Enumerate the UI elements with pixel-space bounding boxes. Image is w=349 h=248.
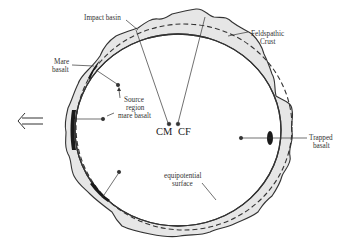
equipotential-surface-label-2: surface	[172, 180, 193, 188]
mare-basalt-label-2: basalt	[52, 66, 69, 74]
cm-label: CM	[156, 126, 173, 137]
equipotential-surface-label: equipotential	[164, 172, 202, 180]
source-region-label-3: mare basalt	[118, 112, 151, 120]
earth-direction-arrow-icon	[18, 113, 43, 129]
cf-label: CF	[178, 126, 191, 137]
source-region-label: Source	[124, 96, 144, 104]
trapped-basalt-label-2: basalt	[313, 142, 330, 150]
trapped-basalt-label: Trapped	[309, 134, 333, 142]
lunar-crust-diagram: Impact basin Feldspathic Crust Mare basa…	[0, 0, 349, 248]
feldspathic-crust-label-2: Crust	[260, 38, 276, 46]
impact-basin-label: Impact basin	[84, 14, 121, 22]
source-region-label-2: region	[126, 104, 145, 112]
feldspathic-crust-label: Feldspathic	[251, 30, 284, 38]
mare-basalt-label: Mare	[54, 58, 69, 66]
